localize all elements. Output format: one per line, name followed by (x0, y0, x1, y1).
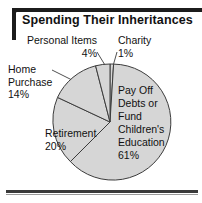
slice-label-home-purchase: Home Purchase 14% (8, 63, 52, 101)
slice-label-purchase-text: Purchase (8, 76, 52, 89)
slice-label-charity-percent: 1% (118, 47, 151, 60)
slice-label-charity-text: Charity (118, 34, 151, 46)
slice-label-charity: Charity 1% (118, 34, 151, 59)
slice-label-personal-items-percent: 4% (27, 47, 97, 60)
slice-label-payoff-line5: Education (118, 136, 165, 149)
slice-label-home-purchase-percent: 14% (8, 88, 52, 101)
slice-label-retirement-text: Retirement (45, 127, 96, 140)
slice-label-payoff-line2: Debts or (118, 97, 165, 110)
frame-bottom-hairline (6, 194, 198, 195)
pie-chart-graphic (0, 0, 202, 203)
frame-bottom-rule (6, 190, 198, 193)
slice-label-payoff-line1: Pay Off (118, 84, 165, 97)
slice-label-personal-items-text: Personal Items (27, 34, 97, 46)
slice-label-personal-items: Personal Items 4% (27, 34, 97, 59)
slice-label-payoff-percent: 61% (118, 149, 165, 162)
slice-label-payoff-line4: Children's (118, 123, 165, 136)
slice-label-payoff-line3: Fund (118, 110, 165, 123)
slice-label-payoff-debts: Pay Off Debts or Fund Children's Educati… (118, 84, 165, 162)
chart-figure: Spending Their Inheritances Personal Ite… (0, 0, 202, 203)
slice-label-retirement: Retirement 20% (45, 127, 96, 152)
slice-label-home-text: Home (8, 63, 52, 76)
slice-label-retirement-percent: 20% (45, 140, 96, 153)
